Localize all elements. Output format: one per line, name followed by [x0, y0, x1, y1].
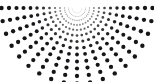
- data-point: [45, 58, 49, 62]
- data-point: [23, 36, 27, 40]
- data-point: [41, 26, 45, 30]
- data-point: [16, 40, 20, 44]
- data-point: [88, 12, 89, 13]
- data-point: [98, 70, 102, 74]
- data-point: [85, 22, 87, 24]
- data-point: [109, 6, 112, 9]
- data-point: [101, 16, 104, 19]
- data-point: [113, 71, 117, 75]
- data-point: [49, 77, 53, 81]
- data-point: [99, 20, 102, 23]
- data-point: [75, 66, 79, 70]
- data-point: [91, 50, 95, 54]
- data-point: [50, 28, 53, 31]
- data-point: [52, 46, 56, 50]
- data-point: [66, 32, 69, 35]
- data-point: [78, 13, 79, 14]
- data-point: [134, 16, 138, 20]
- data-point: [80, 29, 82, 31]
- data-point: [81, 15, 82, 16]
- data-point: [125, 24, 129, 28]
- data-point: [57, 18, 59, 20]
- data-point: [82, 14, 83, 15]
- data-point: [48, 7, 51, 10]
- data-point: [103, 11, 106, 14]
- data-point: [68, 8, 69, 9]
- data-point: [84, 10, 85, 11]
- data-point: [85, 65, 89, 69]
- data-point: [41, 65, 45, 69]
- data-point: [73, 24, 75, 26]
- data-point: [62, 44, 66, 48]
- data-point: [74, 15, 75, 16]
- radial-dot-figure: [0, 0, 154, 82]
- data-point: [64, 38, 67, 41]
- data-point: [62, 30, 65, 33]
- data-point: [29, 14, 33, 18]
- data-point: [81, 9, 82, 10]
- data-point: [101, 77, 105, 81]
- data-point: [121, 33, 125, 37]
- data-point: [83, 13, 84, 14]
- data-point: [75, 74, 79, 78]
- data-point: [96, 63, 100, 67]
- data-point: [142, 18, 146, 22]
- data-point: [78, 20, 79, 21]
- data-point: [75, 12, 76, 13]
- data-point: [140, 44, 144, 48]
- data-point: [82, 46, 86, 50]
- data-point: [85, 9, 86, 10]
- data-point: [0, 19, 4, 23]
- data-point: [78, 16, 79, 17]
- data-point: [92, 13, 94, 15]
- data-point: [115, 13, 119, 17]
- data-point: [11, 29, 15, 33]
- data-point: [109, 65, 113, 69]
- data-point: [84, 17, 85, 18]
- data-point: [134, 40, 138, 44]
- data-point: [65, 14, 66, 15]
- data-point: [70, 13, 71, 14]
- data-point: [68, 22, 70, 24]
- data-point: [98, 7, 100, 9]
- data-point: [93, 56, 97, 60]
- data-point: [87, 73, 91, 77]
- data-point: [85, 32, 88, 35]
- data-point: [64, 7, 65, 8]
- data-point: [18, 27, 22, 31]
- data-point: [105, 58, 109, 62]
- data-point: [97, 14, 99, 16]
- data-point: [72, 8, 73, 9]
- data-point: [127, 36, 131, 40]
- data-point: [86, 15, 87, 16]
- data-point: [70, 18, 71, 19]
- data-point: [31, 22, 35, 26]
- data-point: [78, 12, 79, 13]
- data-point: [76, 29, 78, 31]
- data-point: [119, 58, 123, 62]
- data-point: [65, 26, 67, 28]
- data-point: [135, 6, 139, 10]
- data-point: [81, 19, 82, 20]
- data-point: [93, 10, 95, 12]
- data-point: [79, 12, 80, 13]
- data-point: [121, 45, 125, 49]
- data-point: [36, 13, 40, 17]
- data-point: [22, 6, 26, 10]
- data-point: [108, 12, 111, 15]
- data-point: [146, 32, 150, 36]
- data-point: [59, 21, 61, 23]
- data-point: [59, 50, 63, 54]
- data-point: [42, 6, 45, 9]
- data-point: [95, 18, 97, 20]
- data-point: [127, 50, 131, 54]
- data-point: [114, 52, 118, 56]
- data-point: [63, 18, 65, 20]
- data-point: [83, 52, 87, 56]
- data-point: [98, 11, 100, 13]
- data-point: [102, 52, 106, 56]
- data-point: [82, 23, 84, 25]
- data-point: [89, 9, 90, 10]
- data-point: [55, 41, 59, 45]
- data-point: [84, 59, 88, 63]
